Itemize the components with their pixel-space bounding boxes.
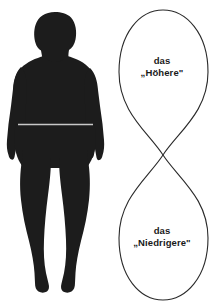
infinity-loop-graphic (112, 0, 223, 306)
right-leg-shape (59, 150, 90, 293)
upper-loop-path (119, 10, 208, 155)
lower-label-line2: „Niedrigere" (112, 237, 212, 249)
lower-loop-label: das „Niedrigere" (112, 225, 212, 248)
human-silhouette-graphic (0, 0, 115, 306)
upper-label-line1: das (112, 55, 212, 67)
left-leg-shape (20, 150, 51, 293)
upper-label-line2: „Höhere" (112, 67, 212, 79)
human-figure-panel (0, 0, 115, 306)
lower-label-line1: das (112, 225, 212, 237)
upper-loop-label: das „Höhere" (112, 55, 212, 78)
lemniscate-panel (112, 0, 223, 306)
